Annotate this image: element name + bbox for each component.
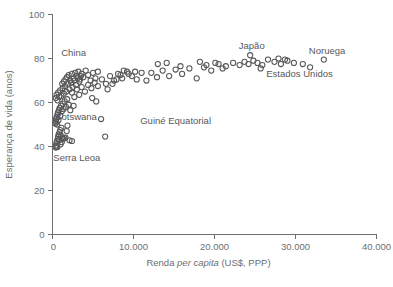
- data-point: [276, 56, 281, 61]
- data-point: [154, 75, 159, 80]
- data-point: [216, 61, 221, 66]
- data-point: [95, 83, 100, 88]
- data-point: [103, 134, 108, 139]
- data-point: [167, 74, 172, 79]
- y-tick-label: 60: [34, 97, 45, 108]
- data-point: [103, 81, 108, 86]
- data-point: [187, 66, 192, 71]
- y-tick-label: 100: [29, 9, 45, 20]
- x-tick-label: 40.000: [362, 241, 391, 252]
- y-tick-label: 40: [34, 141, 45, 152]
- data-point: [164, 60, 169, 65]
- x-tick-label: 10.000: [119, 241, 148, 252]
- data-point: [77, 92, 82, 97]
- data-point: [144, 78, 149, 83]
- data-point: [209, 68, 214, 73]
- botswana-label: Botswana: [55, 112, 97, 122]
- data-point: [99, 77, 104, 82]
- data-point: [321, 57, 326, 62]
- x-axis-ticks: 010.00020.00030.00040.000: [51, 235, 391, 252]
- data-point: [160, 68, 165, 73]
- guine-equatorial-label: Guiné Equatorial: [140, 116, 211, 126]
- data-point: [99, 116, 104, 121]
- x-axis-title-pre: Renda: [146, 257, 177, 268]
- data-point: [197, 59, 202, 64]
- x-tick-label: 30.000: [281, 241, 310, 252]
- data-point: [89, 86, 94, 91]
- x-axis-title-italic: per capita: [176, 257, 219, 268]
- data-point: [194, 76, 199, 81]
- data-point: [178, 64, 183, 69]
- data-point: [155, 61, 160, 66]
- x-axis-title: Renda per capita (US$, PPP): [146, 257, 270, 268]
- data-point: [95, 69, 100, 74]
- data-point: [71, 103, 76, 108]
- y-axis-ticks: 020406080100: [29, 9, 53, 240]
- data-point: [134, 77, 139, 82]
- x-tick-label: 20.000: [200, 241, 229, 252]
- data-point: [231, 60, 236, 65]
- scatter-chart: 020406080100010.00020.00030.00040.000Ren…: [0, 0, 393, 287]
- data-point: [237, 63, 242, 68]
- japao-label: Japão: [239, 41, 265, 51]
- noruega-label: Noruega: [309, 46, 345, 56]
- data-point: [149, 70, 154, 75]
- data-point: [300, 61, 305, 66]
- data-point: [278, 61, 283, 66]
- data-point: [213, 60, 218, 65]
- y-axis-title: Esperança de vida (anos): [3, 70, 14, 178]
- data-point: [139, 70, 144, 75]
- data-point: [246, 61, 251, 66]
- data-point: [107, 74, 112, 79]
- data-point: [173, 67, 178, 72]
- plot-area: 020406080100010.00020.00030.00040.000Ren…: [0, 0, 393, 287]
- data-point: [248, 53, 253, 58]
- data-point: [105, 87, 110, 92]
- data-point: [86, 82, 91, 87]
- x-axis-title-post: (US$, PPP): [219, 257, 271, 268]
- y-tick-label: 80: [34, 53, 45, 64]
- serra-leoa-label: Serra Leoa: [53, 153, 100, 163]
- data-point: [133, 69, 138, 74]
- y-tick-label: 20: [34, 185, 45, 196]
- estados-unidos-label: Estados Unidos: [266, 69, 333, 79]
- y-tick-label: 0: [39, 229, 44, 240]
- data-point: [65, 123, 70, 128]
- data-point: [94, 99, 99, 104]
- data-point: [82, 89, 87, 94]
- china-label: China: [61, 48, 86, 58]
- data-point: [291, 60, 296, 65]
- data-point: [64, 129, 69, 134]
- data-point: [265, 57, 270, 62]
- x-tick-label: 0: [51, 241, 56, 252]
- data-point: [180, 71, 185, 76]
